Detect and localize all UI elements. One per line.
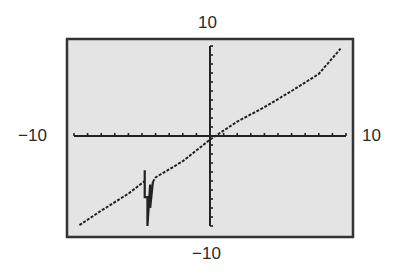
xmin-label: −10 [18, 127, 47, 144]
ymax-label: 10 [198, 14, 217, 31]
xmax-label: 10 [362, 127, 381, 144]
calculator-screen [0, 0, 405, 280]
ymin-label: −10 [192, 245, 221, 262]
